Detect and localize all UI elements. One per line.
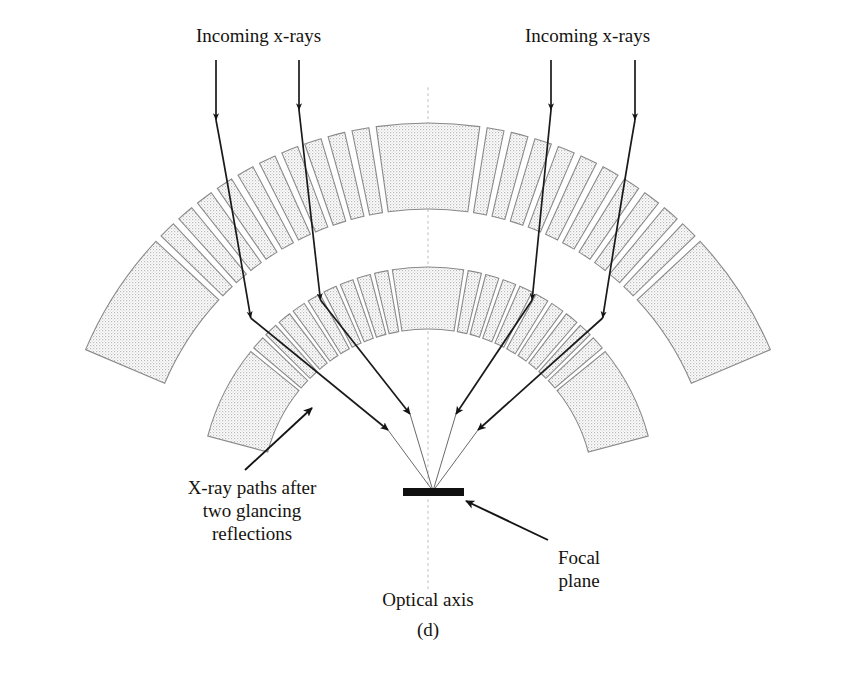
label-incoming-xrays-left: Incoming x-rays	[196, 24, 321, 47]
xray-telescope-diagram	[0, 0, 853, 678]
ray-converging-tail	[433, 414, 456, 491]
focal-plane-bar	[403, 488, 464, 496]
figure-panel-label: (d)	[378, 618, 478, 641]
ray-converging-tail	[410, 414, 433, 491]
mirror-segment	[392, 267, 463, 331]
label-focal-plane: Focal plane	[534, 546, 624, 592]
ray-converging-tail	[388, 430, 433, 491]
label-incoming-xrays-right: Incoming x-rays	[525, 24, 650, 47]
ray-converging-tail	[433, 430, 478, 491]
label-optical-axis: Optical axis	[338, 588, 518, 611]
label-xray-paths: X-ray paths after two glancing reflectio…	[152, 476, 352, 545]
mirror-segment	[376, 123, 480, 212]
